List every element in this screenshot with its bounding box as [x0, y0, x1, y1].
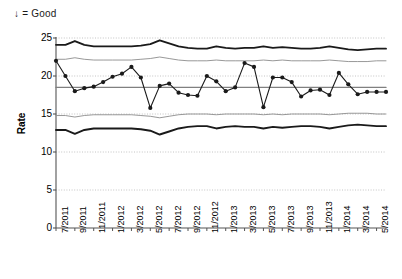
- data-point: [346, 82, 350, 86]
- data-point: [214, 79, 218, 83]
- data-point: [280, 75, 284, 79]
- data-point: [308, 88, 312, 92]
- data-point: [205, 74, 209, 78]
- data-point: [167, 82, 171, 86]
- spc-chart: ↓ = Good Rate 0510152025 7/20119/201111/…: [0, 0, 402, 279]
- data-point: [176, 91, 180, 95]
- data-point: [186, 93, 190, 97]
- data-point: [110, 75, 114, 79]
- data-point: [318, 88, 322, 92]
- data-point: [327, 93, 331, 97]
- data-series-line: [56, 61, 386, 108]
- plot-area: [0, 0, 402, 279]
- data-point: [299, 94, 303, 98]
- data-point: [195, 94, 199, 98]
- data-point: [92, 85, 96, 89]
- data-point: [224, 89, 228, 93]
- data-point: [356, 92, 360, 96]
- data-point: [261, 105, 265, 109]
- data-point: [233, 85, 237, 89]
- limit-line: [56, 40, 386, 50]
- data-point: [252, 65, 256, 69]
- data-point: [158, 84, 162, 88]
- data-point: [129, 65, 133, 69]
- data-point: [374, 90, 378, 94]
- data-point: [290, 80, 294, 84]
- data-point: [101, 80, 105, 84]
- data-point: [73, 89, 77, 93]
- data-point: [120, 72, 124, 76]
- limit-line: [56, 125, 386, 135]
- data-point: [63, 74, 67, 78]
- data-point: [271, 75, 275, 79]
- data-point: [54, 59, 58, 63]
- data-point: [148, 106, 152, 110]
- data-point: [365, 90, 369, 94]
- data-point: [384, 90, 388, 94]
- data-point: [82, 86, 86, 90]
- limit-line: [56, 57, 386, 62]
- data-point: [139, 75, 143, 79]
- data-point: [337, 71, 341, 75]
- data-point: [242, 61, 246, 65]
